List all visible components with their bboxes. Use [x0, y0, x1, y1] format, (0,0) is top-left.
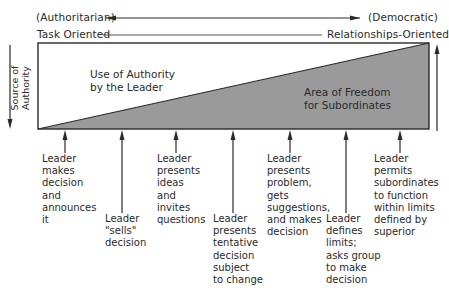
source-of-authority-label: Source of Authority [9, 65, 33, 111]
task-oriented-label: Task Oriented [37, 28, 110, 40]
democratic-label: (Democratic) [368, 11, 438, 23]
authoritarian-democratic-arrow [106, 16, 360, 21]
behavior-arrows [63, 130, 403, 213]
authoritarian-label: (Authoritarian) [36, 11, 115, 23]
behavior-label-7: Leader permits subordinates to function … [374, 153, 439, 238]
behavior-label-4: Leader presents tentative decision subje… [213, 213, 263, 286]
behavior-label-1: Leader makes decision and announces it [42, 153, 96, 226]
behavior-label-6: Leader defines limits; asks group to mak… [326, 213, 381, 286]
relationships-oriented-label: Relationships-Oriented [327, 28, 449, 40]
behavior-label-2: Leader "sells" decision [105, 213, 146, 250]
behavior-label-3: Leader presents ideas and invites questi… [157, 153, 205, 226]
behavior-label-5: Leader presents problem, gets suggestion… [267, 153, 330, 238]
use-of-authority-label: Use of Authority by the Leader [90, 68, 175, 94]
right-arrow-up-icon [435, 44, 440, 131]
area-of-freedom-label: Area of Freedom for Subordinates [304, 86, 391, 112]
